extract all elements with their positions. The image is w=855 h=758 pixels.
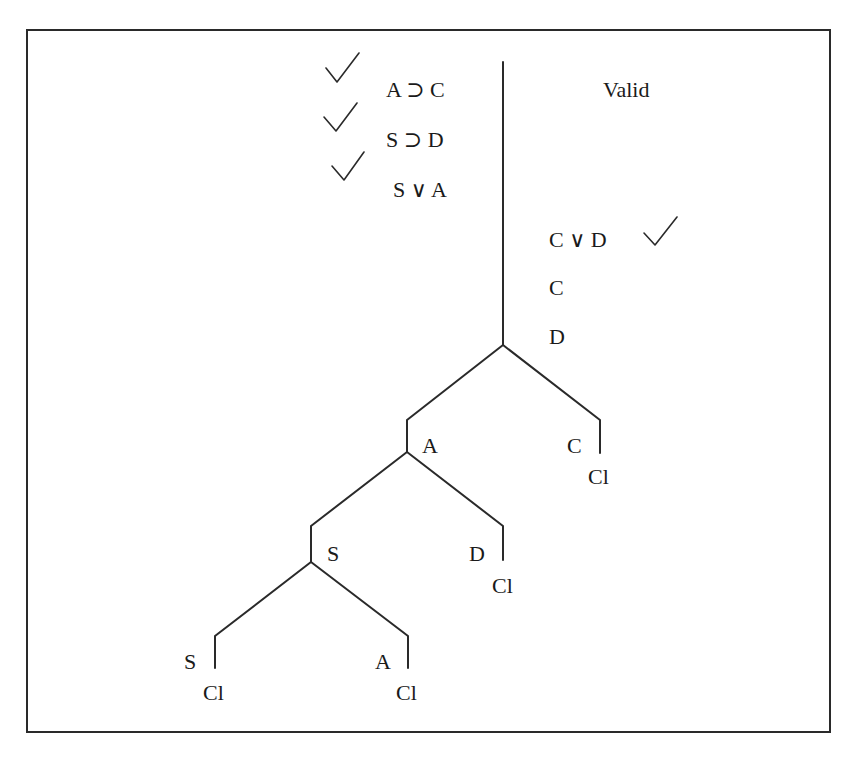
premise-formula: A ⊃ C — [386, 79, 445, 101]
tree-formula: D — [549, 326, 565, 348]
branch-l2-left — [311, 452, 407, 562]
closed-marker: Cl — [396, 682, 417, 704]
check-mark-icon — [644, 217, 677, 245]
premise-formula: S ⊃ D — [386, 129, 444, 151]
branch-formula: A — [422, 435, 438, 457]
branch-l1-right — [503, 345, 600, 453]
closed-marker: Cl — [588, 466, 609, 488]
closed-marker: Cl — [492, 575, 513, 597]
validity-label: Valid — [603, 79, 649, 101]
branch-formula: D — [469, 543, 485, 565]
tree-formula: C — [549, 277, 564, 299]
branch-formula: S — [327, 543, 339, 565]
branch-formula: A — [375, 651, 391, 673]
premise-formula: S ∨ A — [393, 179, 447, 201]
check-mark-icon — [332, 152, 364, 180]
branch-l3-left — [215, 562, 311, 668]
branch-formula: S — [184, 651, 196, 673]
branch-formula: C — [567, 435, 582, 457]
check-mark-icon — [326, 53, 359, 82]
branch-l2-right — [407, 452, 503, 560]
conclusion-formula: C ∨ D — [549, 229, 607, 251]
closed-marker: Cl — [203, 682, 224, 704]
check-mark-icon — [324, 103, 357, 131]
branch-l3-right — [311, 562, 408, 668]
truth-tree-lines — [0, 0, 855, 758]
